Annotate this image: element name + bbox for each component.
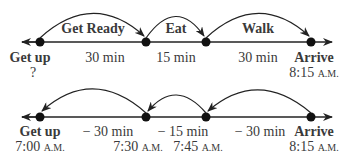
top-interval-1: 30 min: [85, 51, 124, 65]
bottom-interval-1: − 30 min: [83, 125, 134, 139]
bottom-number-line: [22, 89, 332, 122]
bottom-end-time: 8:15 A.M.: [289, 140, 339, 154]
bottom-time-2: 7:30 A.M.: [113, 140, 163, 154]
bottom-start-label: Get up: [20, 125, 61, 139]
arc-label-get-ready: Get Ready: [61, 22, 124, 36]
bottom-interval-3: − 30 min: [235, 125, 286, 139]
top-end-time: 8:15 A.M.: [289, 66, 339, 80]
top-start-time: ?: [30, 66, 36, 80]
bottom-time-3: 7:45 A.M.: [173, 140, 223, 154]
bottom-end-label: Arrive: [294, 125, 334, 139]
arc-label-walk: Walk: [242, 22, 274, 36]
top-start-label: Get up: [10, 51, 51, 65]
top-interval-3: 30 min: [238, 51, 277, 65]
bottom-start-time: 7:00 A.M.: [15, 140, 65, 154]
top-end-label: Arrive: [294, 51, 334, 65]
arc-label-eat: Eat: [166, 22, 187, 36]
top-interval-2: 15 min: [156, 51, 195, 65]
timeline-diagram: Get Ready Eat Walk Get up ? 30 min 15 mi…: [0, 0, 352, 168]
bottom-interval-2: − 15 min: [158, 125, 209, 139]
